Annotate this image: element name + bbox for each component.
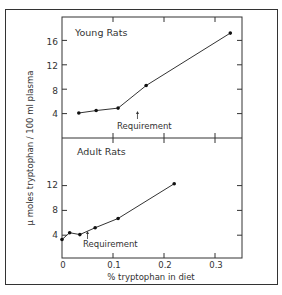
ytick-lower-12: 12	[47, 180, 58, 190]
arrow-up-icon	[136, 111, 139, 114]
data-point	[116, 217, 120, 221]
ytick-lower-4: 4	[52, 230, 58, 240]
data-point	[93, 226, 97, 230]
xtick-0: 0	[60, 260, 65, 270]
ytick-lower-8: 8	[52, 205, 58, 215]
upper-panel-title: Young Rats	[74, 27, 127, 38]
lower-requirement-label: Requirement	[83, 239, 138, 249]
data-point	[68, 231, 72, 235]
lower-series-line	[62, 184, 174, 240]
xtick-0.3: 0.3	[209, 260, 223, 270]
data-point	[78, 233, 82, 237]
data-point	[94, 109, 98, 113]
y-axis-label: μ moles tryptophan / 100 ml plasma	[25, 71, 35, 226]
data-point	[172, 182, 176, 186]
upper-series-line	[79, 33, 230, 113]
data-point	[144, 84, 148, 88]
data-point	[229, 31, 233, 35]
data-series	[60, 31, 232, 241]
data-point	[77, 111, 81, 115]
ytick-upper-12: 12	[47, 61, 58, 71]
xtick-0.1: 0.1	[107, 260, 121, 270]
upper-requirement-label: Requirement	[117, 121, 172, 131]
data-point	[116, 106, 120, 110]
xtick-0.2: 0.2	[158, 260, 172, 270]
ytick-upper-16: 16	[47, 37, 59, 47]
chart-svg: Young Rats Adult Rats Requirement Requir…	[0, 0, 282, 295]
ytick-upper-4: 4	[52, 109, 58, 119]
data-point	[60, 238, 64, 242]
lower-panel-title: Adult Rats	[77, 146, 126, 157]
ytick-upper-8: 8	[52, 86, 58, 96]
x-axis-label: % tryptophan in diet	[107, 272, 195, 282]
